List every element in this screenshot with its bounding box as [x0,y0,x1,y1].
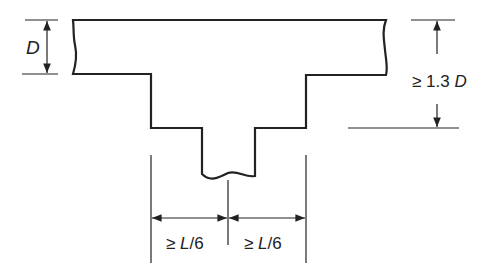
flange-depth-label: D [26,38,40,57]
left-width-variable: L [180,234,189,253]
right-width-label: ≥ L/6 [244,235,282,252]
left-width-fraction: /6 [190,234,204,253]
right-width-symbol: ≥ [244,234,258,253]
web-depth-variable: D [454,72,466,91]
web-depth-label: ≥ 1.3 D [412,73,467,90]
left-width-symbol: ≥ [166,234,180,253]
right-width-fraction: /6 [268,234,282,253]
left-width-label: ≥ L/6 [166,235,204,252]
web-depth-symbol: ≥ 1.3 [412,72,454,91]
beam-outline [73,20,387,179]
right-width-variable: L [258,234,267,253]
